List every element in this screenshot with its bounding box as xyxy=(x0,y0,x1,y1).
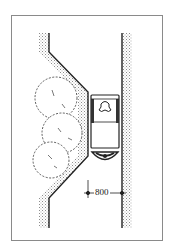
wheelchair-user-icon xyxy=(91,95,119,160)
plan-drawing xyxy=(0,0,169,243)
right-wall xyxy=(122,33,132,228)
dimension-label: 800 xyxy=(94,187,110,197)
